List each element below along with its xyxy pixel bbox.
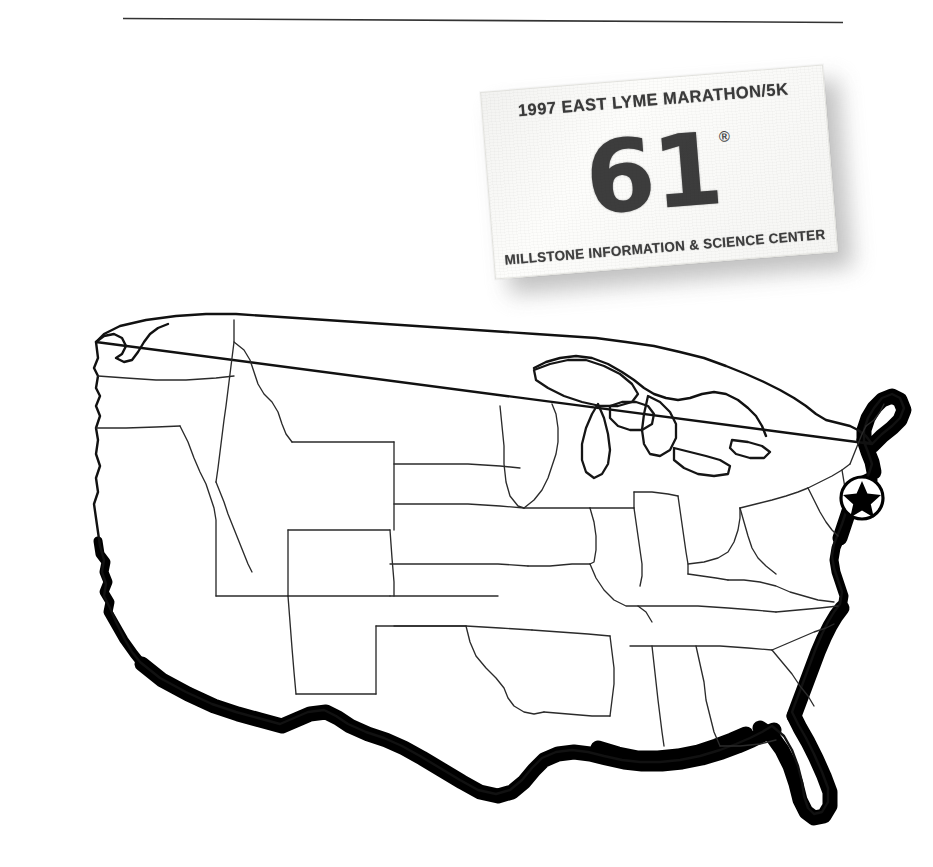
race-bib-card: 1997 EAST LYME MARATHON/5K 61 ® MILLSTON… [480, 65, 838, 280]
border-tn-north [638, 606, 776, 612]
us-map-container [38, 296, 918, 856]
border-co-ks [390, 530, 394, 596]
border-ca-nv-az [180, 426, 216, 596]
rule-line [123, 19, 843, 23]
southeast-atlantic-shadow [794, 608, 842, 716]
southern-border-shadow [142, 664, 774, 796]
border-al-ga [696, 646, 720, 746]
border-ms-al [652, 646, 664, 746]
border-ar-la [544, 712, 610, 716]
race-bib: 1997 EAST LYME MARATHON/5K 61 ® MILLSTON… [480, 65, 838, 280]
border-mo-ar [532, 630, 610, 636]
border-nv-ut [216, 482, 252, 572]
east-lyme-marker[interactable] [841, 477, 883, 519]
border-mn-wi [524, 404, 558, 508]
bib-number: 61 [582, 124, 724, 225]
border-pa-md [740, 508, 776, 574]
border-ok-tx [466, 626, 544, 714]
border-sd-ne [394, 504, 524, 508]
lake-ontario-outline [730, 440, 770, 458]
border-id-mt [234, 342, 292, 442]
border-nj-pa [808, 488, 838, 536]
border-mn-west [500, 406, 524, 508]
border-tn-south [630, 646, 772, 650]
bib-event-title: 1997 EAST LYME MARATHON/5K [517, 79, 789, 120]
border-wa-or [98, 376, 234, 380]
bib-number-row: 61 ® [582, 123, 736, 225]
border-va-wv-md [728, 580, 834, 602]
border-ne-ks [390, 564, 528, 566]
border-ky-va-wv [688, 574, 728, 580]
border-oh-wv-pa [688, 508, 740, 564]
border-pa-ny [740, 488, 808, 508]
border-in-oh [678, 496, 688, 574]
border-ks-ok [394, 626, 532, 630]
border-mo-il-ky [590, 564, 652, 622]
border-or-ca [96, 426, 180, 428]
border-ia-mo [528, 564, 590, 566]
lake-michigan-outline [582, 404, 610, 478]
great-lakes-group [534, 360, 770, 478]
border-id-west [216, 320, 234, 482]
border-az-nm [288, 596, 296, 694]
border-nd-sd [394, 464, 520, 468]
bib-number-mark: ® [718, 129, 730, 143]
border-mi-oh-in [634, 492, 678, 496]
border-ny-vt-ma [808, 464, 850, 488]
lake-erie-outline [674, 448, 730, 476]
us-map-svg [38, 296, 918, 856]
border-ia-il [590, 508, 596, 564]
horizontal-rule [123, 13, 843, 27]
lake-superior-outline [534, 360, 638, 406]
border-ar-ms [610, 636, 614, 716]
border-il-in [634, 508, 642, 586]
border-nc-va [776, 606, 838, 612]
